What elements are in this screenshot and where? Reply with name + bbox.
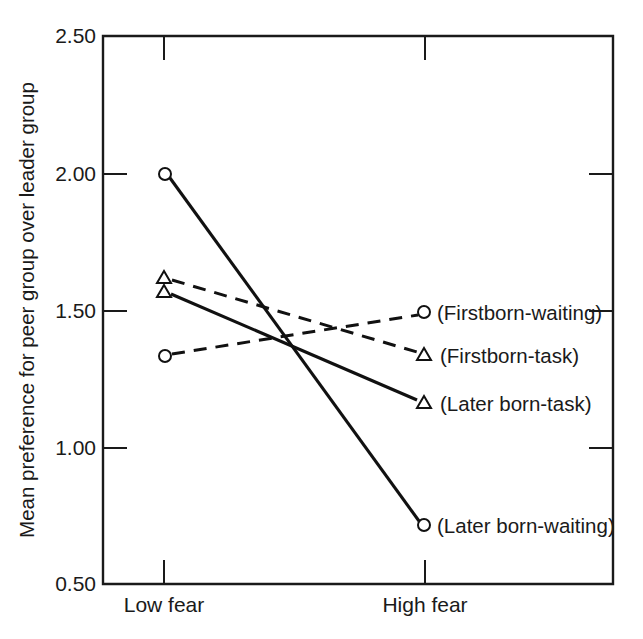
y-axis-title: Mean preference for peer group over lead… <box>15 82 38 538</box>
series-label-firstborn-task: (Firstborn-task) <box>440 344 579 367</box>
figure-canvas: 2.50 2.00 1.50 1.00 0.50 Low fear High f… <box>0 0 643 639</box>
series-later-born-waiting-line <box>170 178 419 521</box>
series-later-born-waiting-marker-low-fear <box>159 168 171 180</box>
series-label-firstborn-waiting: (Firstborn-waiting) <box>437 301 602 324</box>
series-firstborn-task-marker-high-fear <box>417 348 431 360</box>
series-label-later-born-waiting: (Later born-waiting) <box>437 514 615 537</box>
series-later-born-task-marker-low-fear <box>157 285 171 297</box>
series-firstborn-waiting-marker-low-fear <box>159 350 171 362</box>
y-tick-label-1p50: 1.50 <box>55 299 96 322</box>
series-firstborn-task-marker-low-fear <box>157 271 171 283</box>
y-tick-label-2p00: 2.00 <box>55 162 96 185</box>
series-firstborn-waiting-marker-high-fear <box>418 306 430 318</box>
y-tick-label-2p50: 2.50 <box>55 24 96 47</box>
series-firstborn-task-line <box>172 280 417 352</box>
series-label-later-born-task: (Later born-task) <box>440 392 592 415</box>
y-axis-title-text: Mean preference for peer group over lead… <box>15 82 38 538</box>
line-chart: 2.50 2.00 1.50 1.00 0.50 Low fear High f… <box>0 0 643 639</box>
y-tick-label-0p50: 0.50 <box>55 572 96 595</box>
x-axis-ticks <box>164 36 425 584</box>
series-later-born-waiting-marker-high-fear <box>418 519 430 531</box>
x-axis-tick-labels: Low fear High fear <box>124 593 468 616</box>
x-tick-label-low-fear: Low fear <box>124 593 205 616</box>
y-axis-tick-labels: 2.50 2.00 1.50 1.00 0.50 <box>55 24 96 595</box>
x-tick-label-high-fear: High fear <box>382 593 467 616</box>
series-later-born-task-marker-high-fear <box>417 396 431 408</box>
y-tick-label-1p00: 1.00 <box>55 436 96 459</box>
series-later-born-task-line <box>171 294 417 400</box>
y-axis-ticks-left <box>103 174 127 448</box>
